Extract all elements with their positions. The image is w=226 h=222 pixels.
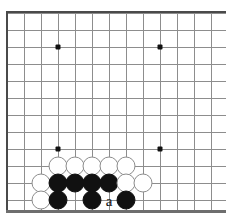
- grid-line-vertical: [211, 13, 212, 210]
- star-point: [56, 147, 61, 152]
- star-point: [158, 45, 163, 50]
- stone-black[interactable]: [49, 191, 68, 210]
- stone-white[interactable]: [134, 174, 153, 193]
- grid-line-vertical: [160, 13, 161, 210]
- board-edge-left: [6, 11, 8, 212]
- board-edge-bottom: [6, 210, 226, 213]
- star-point: [56, 45, 61, 50]
- board-edge-top: [6, 11, 226, 13]
- grid-line-vertical: [24, 13, 25, 210]
- stone-black[interactable]: [83, 191, 102, 210]
- go-board-diagram: a: [0, 0, 226, 222]
- star-point: [158, 147, 163, 152]
- stone-black[interactable]: [117, 191, 136, 210]
- point-label-a: a: [106, 194, 113, 209]
- grid-line-vertical: [177, 13, 178, 210]
- grid-line-vertical: [194, 13, 195, 210]
